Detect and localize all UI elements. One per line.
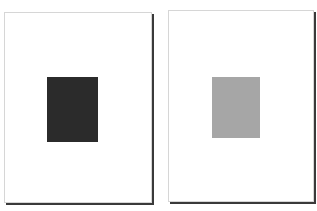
gray-text-block: [212, 77, 260, 138]
left-block-label: dark text block: [5, 13, 6, 14]
left-page: dark text block: [4, 12, 152, 203]
dark-text-block: [47, 77, 98, 142]
right-block-label: light gray text block: [169, 11, 170, 12]
right-page: light gray text block: [168, 10, 314, 202]
